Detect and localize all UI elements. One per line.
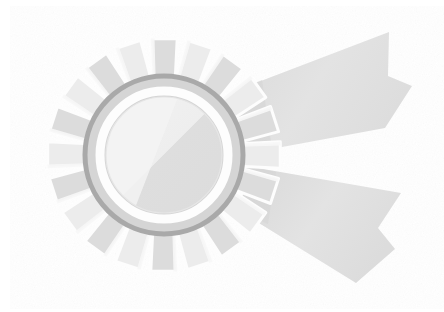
award-rosette-illustration	[0, 0, 444, 312]
illustration-stage	[0, 0, 444, 312]
